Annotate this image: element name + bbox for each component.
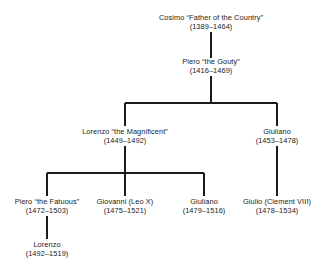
tree-node-lorenzo-1492[interactable]: Lorenzo (1492–1519) <box>26 241 69 258</box>
tree-node-giovanni-leo-x[interactable]: Giovanni (Leo X) (1475–1521) <box>97 198 154 215</box>
node-dates: (1492–1519) <box>26 250 69 259</box>
tree-node-giuliano-1453[interactable]: Giuliano (1453–1478) <box>256 128 299 145</box>
tree-node-giulio-clement-viii[interactable]: Giulio (Clement VIII) (1478–1534) <box>243 198 311 215</box>
node-dates: (1475–1521) <box>97 207 154 216</box>
tree-node-piero-gouty[interactable]: Piero “the Gouty” (1416–1469) <box>182 58 240 75</box>
node-dates: (1389–1464) <box>159 23 263 32</box>
node-dates: (1416–1469) <box>182 67 240 76</box>
node-dates: (1453–1478) <box>256 137 299 146</box>
node-dates: (1478–1534) <box>243 207 311 216</box>
tree-node-lorenzo-magnificent[interactable]: Lorenzo “the Magnificent” (1449–1492) <box>82 128 168 145</box>
tree-node-giuliano-1479[interactable]: Giuliano (1479–1516) <box>183 198 226 215</box>
node-dates: (1449–1492) <box>82 137 168 146</box>
tree-node-cosimo[interactable]: Cosimo “Father of the Country” (1389–146… <box>159 14 263 31</box>
node-dates: (1479–1516) <box>183 207 226 216</box>
family-tree-diagram: Cosimo “Father of the Country” (1389–146… <box>0 0 328 280</box>
tree-node-piero-fatuous[interactable]: Piero “the Fatuous” (1472–1503) <box>15 198 80 215</box>
node-dates: (1472–1503) <box>15 207 80 216</box>
